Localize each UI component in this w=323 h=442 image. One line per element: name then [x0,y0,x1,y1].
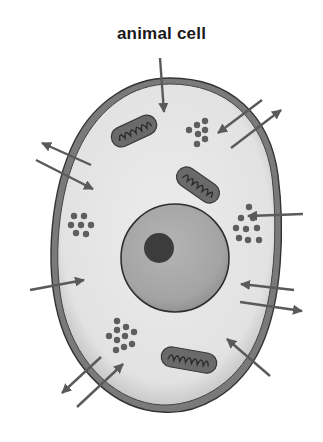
nucleolus [144,233,174,263]
animal-cell-diagram [0,0,323,442]
nucleus [121,204,229,312]
